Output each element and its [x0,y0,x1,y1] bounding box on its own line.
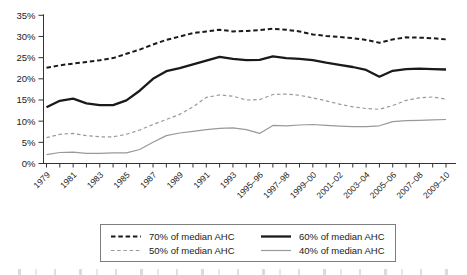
legend-label: 50% of median AHC [149,245,235,256]
x-tick-label: 1995–96 [235,170,266,201]
line-chart-canvas: 0%5%10%15%20%25%30%35%197919811983198519… [0,0,467,222]
x-tick-label: 1997–98 [261,170,292,201]
legend-item: 40% of median AHC [261,245,389,256]
y-tick-label: 10% [16,116,36,127]
x-tick-label: 1987 [138,170,159,191]
x-tick-label: 2009–10 [421,170,452,201]
y-tick-label: 25% [16,52,36,63]
x-tick-label: 1991 [191,170,212,191]
series-line-3 [47,120,447,155]
legend-label: 60% of median AHC [299,231,385,242]
legend-item: 50% of median AHC [111,245,261,256]
x-tick-label: 2003–04 [341,170,372,201]
series-line-1 [47,56,447,107]
x-tick-label: 1989 [165,170,186,191]
y-tick-label: 5% [22,137,36,148]
x-tick-label: 1979 [31,170,52,191]
y-tick-label: 0% [22,158,36,169]
x-axis-ticks: 197919811983198519871989199119931995–961… [31,164,451,201]
y-axis-ticks: 0%5%10%15%20%25%30%35% [16,10,43,169]
y-tick-label: 20% [16,73,36,84]
x-tick-label: 1999–00 [288,170,319,201]
chart-figure: 0%5%10%15%20%25%30%35%197919811983198519… [0,0,467,275]
x-tick-label: 1993 [218,170,239,191]
legend-label: 40% of median AHC [299,245,385,256]
legend-label: 70% of median AHC [149,231,235,242]
legend-item: 60% of median AHC [261,231,389,242]
x-tick-label: 2007–08 [394,170,425,201]
y-tick-label: 15% [16,94,36,105]
legend-line-sample-60pct-icon [261,232,291,241]
x-tick-label: 1985 [111,170,132,191]
chart-legend: 70% of median AHC 60% of median AHC 50% … [100,224,396,262]
series-line-2 [47,94,447,138]
y-tick-label: 35% [16,10,36,21]
x-tick-label: 2001–02 [314,170,345,201]
legend-line-sample-40pct-icon [261,246,291,255]
plot-lines [47,29,447,155]
series-line-0 [47,29,447,68]
x-tick-label: 1981 [58,170,79,191]
x-tick-label: 2005–06 [368,170,399,201]
axes [43,14,457,163]
y-tick-label: 30% [16,31,36,42]
legend-line-sample-70pct-icon [111,232,141,241]
legend-line-sample-50pct-icon [111,246,141,255]
legend-item: 70% of median AHC [111,231,261,242]
cropped-caption-fragment [8,269,460,275]
x-tick-label: 1983 [85,170,106,191]
